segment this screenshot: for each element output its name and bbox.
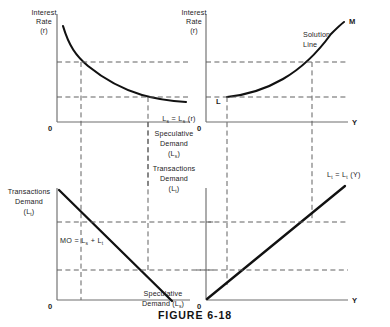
tl-origin-label: 0 xyxy=(48,124,52,133)
tl-y-axis-title-line1: Interest xyxy=(22,8,66,17)
center-upper-line2: Demand xyxy=(143,139,205,148)
bl-curve-label: MO = Ls + Lt xyxy=(60,236,103,246)
figure-6-18: Interest Rate (r) 0 Ls = Ls (r) Interest… xyxy=(0,0,390,327)
tr-solution-line-label-line2: Line xyxy=(303,40,317,49)
bl-y-axis-title-line2: Demand xyxy=(3,197,55,206)
figure-caption: FIGURE 6-18 xyxy=(0,309,390,321)
center-lower-line2: Demand xyxy=(143,174,205,183)
tr-x-axis-label: Y xyxy=(352,118,357,127)
tr-endpoint-L-label: L xyxy=(216,97,221,106)
bl-x-axis-title-line1: Speculative xyxy=(124,289,202,298)
bl-y-axis-title-line1: Transactions xyxy=(3,187,55,196)
panel-top-right xyxy=(206,14,348,285)
tl-y-axis-title-line2: Rate xyxy=(22,17,66,26)
br-transactions-demand-line xyxy=(207,186,345,299)
bl-x-axis-title-line2: Demand (Ls) xyxy=(124,299,202,309)
center-upper-line1: Speculative xyxy=(143,129,205,138)
tr-solution-line-label-line1: Solution xyxy=(303,30,330,39)
tr-y-axis-title-line3: (r) xyxy=(172,26,216,35)
bl-y-axis-title-line3: (Lt) xyxy=(3,207,55,217)
tr-y-axis-title-line2: Rate xyxy=(172,17,216,26)
br-x-axis-label: Y xyxy=(352,296,357,305)
tr-endpoint-M-label: M xyxy=(349,17,355,26)
tr-y-axis-title-line1: Interest xyxy=(172,8,216,17)
tl-curve-label-text: Ls = Ls (r) xyxy=(162,114,196,123)
center-lower-line3: (Lt) xyxy=(143,184,205,194)
tl-y-axis-title-line3: (r) xyxy=(22,26,66,35)
panel-bottom-right xyxy=(196,186,348,300)
center-lower-line1: Transactions xyxy=(143,164,205,173)
br-curve-label: Lt = Lt (Y) xyxy=(327,170,361,180)
center-upper-line3: (Ls) xyxy=(143,149,205,159)
